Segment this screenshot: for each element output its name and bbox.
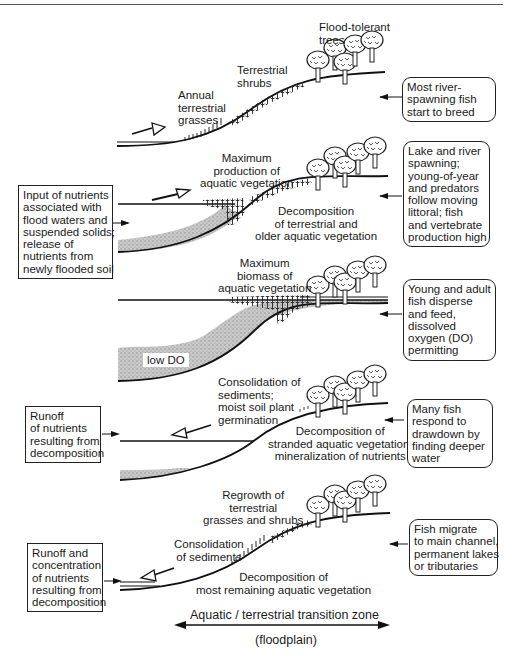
fish-response-box-stage-2: Lake and river spawning; young-of-year a… — [403, 141, 490, 247]
fish-response-box-stage-5: Fish migrate to main channel, permanent … — [409, 519, 498, 576]
fish-response-box-stage-1: Most river- spawning fish start to breed — [402, 77, 496, 122]
fish-response-box-stage-4: Many fish respond to drawdown by finding… — [407, 399, 493, 468]
label-annual-grasses: Annual terrestrial grasses — [178, 89, 226, 127]
transition-zone-label: Aquatic / terrestrial transition zone — [190, 609, 379, 622]
label-max-production-aquatic: Maximum production of aquatic vegetation — [200, 152, 293, 190]
label-low-do-zone: low DO — [143, 353, 189, 367]
transition-zone-axis — [174, 621, 390, 629]
label-regrowth-terrestrial: Regrowth of terrestrial grasses and shru… — [203, 489, 303, 527]
label-decomposition-terrestrial: Decomposition of terrestrial and older a… — [255, 205, 377, 243]
label-max-biomass-aquatic: Maximum biomass of aquatic vegetation — [218, 257, 311, 295]
label-flood-tolerant-trees: Flood-tolerant trees — [319, 21, 390, 46]
fish-response-box-stage-3: Young and adult fish disperse and feed, … — [403, 279, 496, 361]
label-terrestrial-shrubs: Terrestrial shrubs — [237, 64, 287, 89]
label-decomposition-remaining: Decomposition of most remaining aquatic … — [196, 571, 371, 596]
label-consolidation-sediments: Consolidation of sediments — [174, 538, 244, 563]
nutrient-input-box-stage-2: Input of nutrients associated with flood… — [18, 185, 113, 279]
runoff-box-stage-5: Runoff and concentration of nutrients re… — [27, 543, 103, 612]
runoff-box-stage-4: Runoff of nutrients resulting from decom… — [25, 406, 101, 463]
floodplain-label: (floodplain) — [255, 634, 317, 647]
label-decomposition-stranded: Decomposition of stranded aquatic vegeta… — [268, 425, 413, 463]
label-consolidation-germination: Consolidation of sediments; moist soil p… — [218, 376, 300, 426]
